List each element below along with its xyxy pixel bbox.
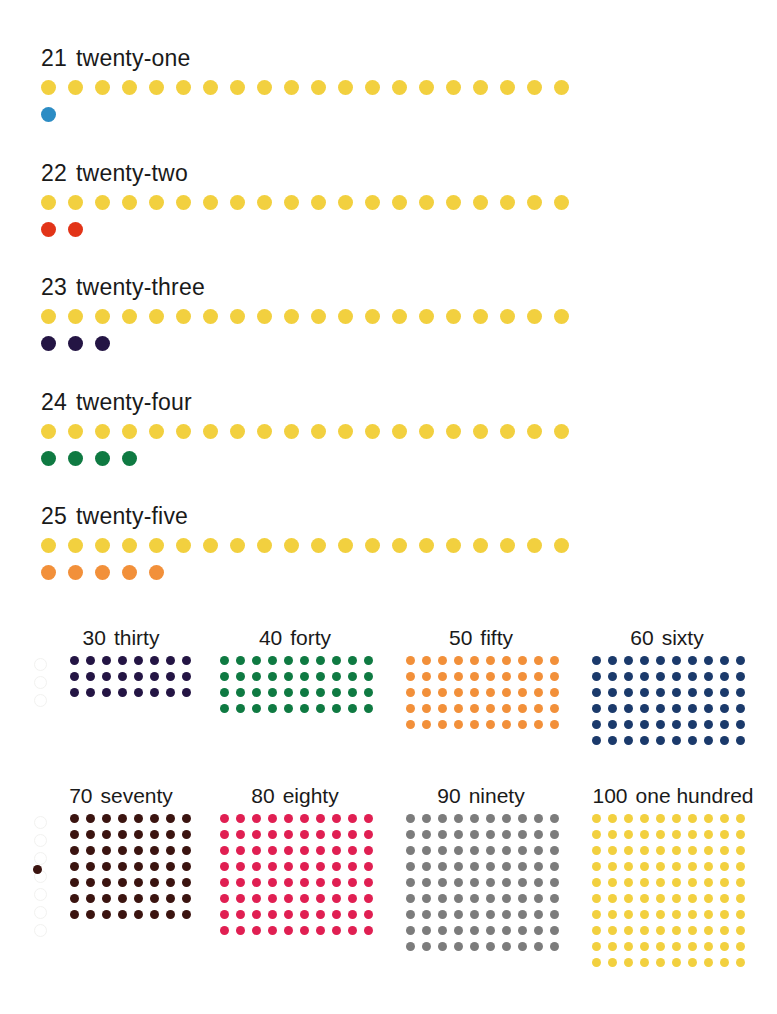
counter-dot [300,814,309,823]
counter-dot [688,878,697,887]
number-row-22: 22twenty-two [41,160,581,244]
dot-grid-row [592,878,768,894]
counter-dot [68,336,83,351]
counter-dot [268,814,277,823]
counter-dot [182,894,191,903]
counter-dot [470,926,479,935]
counter-dot [736,672,745,681]
counter-dot [365,309,380,324]
number-block-80: 80eighty [206,784,384,942]
counter-dot [268,878,277,887]
counter-dot [406,926,415,935]
counter-dot [300,656,309,665]
counter-dot [95,538,110,553]
counter-dot [365,80,380,95]
counter-dot [470,910,479,919]
dot-grid-row [592,894,768,910]
counter-dot [316,704,325,713]
counter-dot [640,656,649,665]
counter-dot [134,878,143,887]
counter-dot [406,688,415,697]
counter-dot [68,451,83,466]
counter-dot [422,688,431,697]
counter-dot [704,878,713,887]
counter-dot [300,830,309,839]
dot-grid-row [220,894,384,910]
dot-grid-40 [220,656,384,720]
counter-dot [688,910,697,919]
counter-dot [656,656,665,665]
counter-dot [338,424,353,439]
number-label-24: 24twenty-four [41,389,581,415]
counter-dot [656,958,665,967]
counter-dot [720,862,729,871]
dot-grid-row [406,814,570,830]
counter-dot [704,688,713,697]
number-block-90: 90ninety [392,784,570,958]
counter-dot [316,656,325,665]
counter-dot [332,672,341,681]
number-digits: 22 [41,160,67,186]
counter-dot [252,878,261,887]
counter-dot [41,80,56,95]
counter-dot [203,80,218,95]
counter-dot [122,195,137,210]
dot-group-22 [41,195,581,244]
counter-dot [736,736,745,745]
counter-dot [406,942,415,951]
counter-dot [672,814,681,823]
counter-dot [486,814,495,823]
counter-dot [592,862,601,871]
stray-counter-dot [33,865,42,874]
scan-artifact-ring [34,852,47,865]
dot-grid-row [406,910,570,926]
extra-dots [41,451,581,473]
counter-dot [624,862,633,871]
counter-dot [257,424,272,439]
base-twenty-dots [41,424,581,446]
counter-dot [550,926,559,935]
counter-dot [332,688,341,697]
counter-dot [392,309,407,324]
counter-dot [118,672,127,681]
counter-dot [150,910,159,919]
counter-dot [203,309,218,324]
counter-dot [470,894,479,903]
counter-dot [284,862,293,871]
scan-artifact-ring [34,694,47,707]
base-twenty-dots [41,309,581,331]
dot-grid-area-70 [32,814,210,926]
counter-dot [454,878,463,887]
counter-dot [736,830,745,839]
counter-dot [608,830,617,839]
counter-dot [502,656,511,665]
counter-dot [316,846,325,855]
counter-dot [406,830,415,839]
counter-dot [624,878,633,887]
counter-dot [624,830,633,839]
counter-dot [592,910,601,919]
counter-dot [640,688,649,697]
counter-dot [348,862,357,871]
counter-dot [736,878,745,887]
counter-dot [392,538,407,553]
number-label-70: 70seventy [32,784,210,808]
counter-dot [284,814,293,823]
counter-dot [419,195,434,210]
dot-grid-row [592,720,756,736]
counter-dot [640,720,649,729]
number-digits: 24 [41,389,67,415]
counter-dot [438,704,447,713]
counter-dot [364,688,373,697]
counter-dot [406,720,415,729]
counter-dot [365,538,380,553]
counter-dot [316,878,325,887]
counter-dot [502,830,511,839]
counter-dot [438,910,447,919]
counter-dot [419,538,434,553]
counter-dot [704,672,713,681]
counter-dot [446,424,461,439]
counter-dot [284,926,293,935]
counter-dot [672,830,681,839]
counter-dot [486,830,495,839]
